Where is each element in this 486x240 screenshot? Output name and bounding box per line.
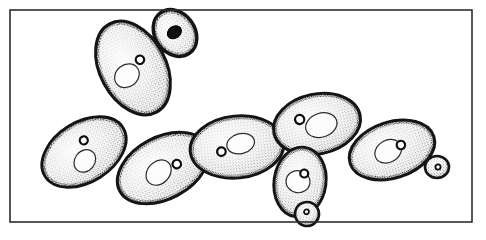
nucleus-dot-1 (396, 140, 407, 151)
nucleus-dot-1 (217, 147, 226, 156)
nucleus-dot-1 (300, 169, 309, 178)
bud-far-right-tip (425, 156, 449, 178)
bud-nucleus-dot (304, 209, 310, 215)
yeast-illustration-svg (0, 0, 486, 240)
bud-nucleus-dot (435, 164, 440, 169)
illustration-container (0, 0, 486, 240)
nucleus-dot-1 (294, 114, 305, 125)
